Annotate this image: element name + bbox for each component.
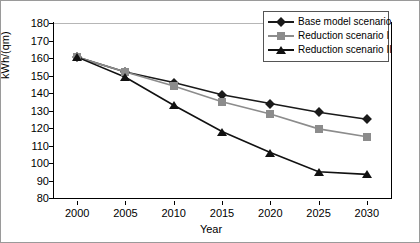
y-tick-label: 180 — [5, 18, 49, 29]
data-point-marker — [314, 168, 324, 176]
legend-item: Reduction scenario I — [268, 29, 384, 42]
data-point-marker — [315, 125, 323, 133]
data-point-marker — [266, 110, 274, 118]
x-tick-label: 2030 — [355, 208, 379, 219]
x-tick-label: 2015 — [210, 208, 234, 219]
data-point-marker — [170, 82, 178, 90]
data-point-marker — [362, 170, 372, 178]
legend-label: Base model scenario — [298, 17, 391, 27]
data-point-marker — [265, 149, 275, 157]
x-tick-mark — [125, 201, 126, 205]
y-tick-mark — [49, 23, 53, 24]
x-tick-label: 2020 — [258, 208, 282, 219]
legend-label: Reduction scenario II — [298, 45, 392, 55]
data-point-marker — [217, 128, 227, 136]
data-point-marker — [72, 53, 82, 61]
y-tick-mark — [49, 93, 53, 94]
x-tick-mark — [174, 201, 175, 205]
legend-key-icon — [268, 30, 294, 42]
data-point-marker — [120, 73, 130, 81]
y-axis-line — [53, 22, 54, 199]
data-point-marker — [169, 101, 179, 109]
legend-key-icon — [268, 16, 294, 28]
legend-item: Base model scenario — [268, 15, 384, 28]
y-axis-title: kWh/(qm) — [0, 31, 11, 79]
x-tick-label: 2000 — [65, 208, 89, 219]
y-tick-label: 130 — [5, 106, 49, 117]
y-tick-label: 100 — [5, 158, 49, 169]
y-tick-mark — [49, 111, 53, 112]
y-tick-label: 120 — [5, 123, 49, 134]
chart-legend: Base model scenarioReduction scenario IR… — [263, 11, 389, 62]
x-tick-label: 2025 — [306, 208, 330, 219]
x-axis-line — [53, 198, 392, 199]
x-tick-mark — [77, 201, 78, 205]
legend-key-icon — [268, 44, 294, 56]
x-tick-label: 2005 — [113, 208, 137, 219]
y-tick-mark — [49, 76, 53, 77]
y-tick-label: 90 — [5, 176, 49, 187]
x-tick-mark — [270, 201, 271, 205]
y-tick-label: 160 — [5, 53, 49, 64]
x-tick-mark — [367, 201, 368, 205]
y-tick-label: 170 — [5, 36, 49, 47]
y-tick-mark — [49, 181, 53, 182]
y-tick-mark — [49, 41, 53, 42]
y-tick-label: 110 — [5, 141, 49, 152]
data-point-marker — [363, 133, 371, 141]
legend-label: Reduction scenario I — [298, 31, 389, 41]
x-axis-title: Year — [1, 223, 420, 235]
y-tick-mark — [49, 128, 53, 129]
x-tick-mark — [319, 201, 320, 205]
x-tick-mark — [222, 201, 223, 205]
data-point-marker — [218, 98, 226, 106]
y-tick-label: 150 — [5, 71, 49, 82]
y-tick-label: 140 — [5, 88, 49, 99]
y-tick-mark — [49, 58, 53, 59]
y-tick-mark — [49, 146, 53, 147]
y-tick-mark — [49, 198, 53, 199]
x-axis-ticks: 2000200520102015202020252030 — [1, 201, 420, 221]
legend-item: Reduction scenario II — [268, 43, 384, 56]
x-tick-label: 2010 — [161, 208, 185, 219]
series-line — [77, 57, 367, 119]
y-tick-mark — [49, 163, 53, 164]
chart-figure: 8090100110120130140150160170180 20002005… — [0, 0, 420, 243]
